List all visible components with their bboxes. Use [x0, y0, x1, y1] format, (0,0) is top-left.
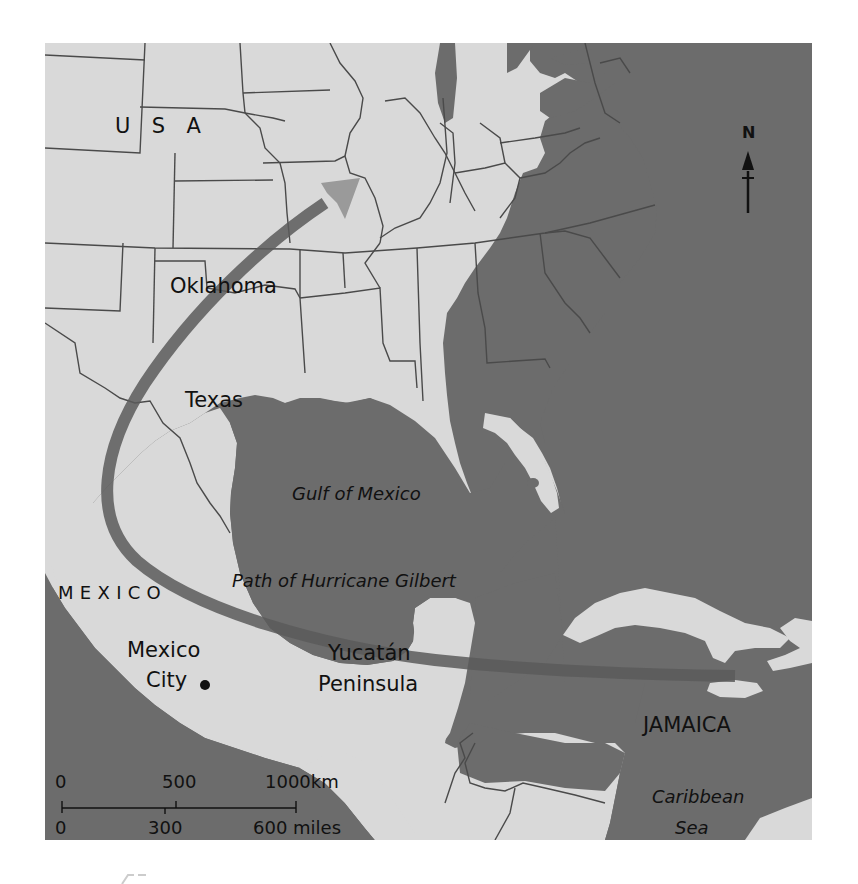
- scale-mi-0: 0: [55, 819, 66, 837]
- label-jamaica: JAMAICA: [643, 715, 731, 736]
- label-mexico: MEXICO: [58, 584, 167, 602]
- scale-km-500: 500: [162, 773, 196, 791]
- label-hurricane-path: Path of Hurricane Gilbert: [232, 572, 456, 590]
- scale-km-0: 0: [55, 773, 66, 791]
- label-gulf-of-mexico: Gulf of Mexico: [292, 485, 421, 503]
- label-caribbean-1: Caribbean: [652, 788, 744, 806]
- scale-mi-300: 300: [148, 819, 182, 837]
- scale-mi-600: 600 miles: [253, 819, 341, 837]
- compass-n-label: N: [742, 125, 755, 141]
- map-frame: U S A Oklahoma Texas Gulf of Mexico Path…: [45, 43, 812, 840]
- label-yucatan-2: Peninsula: [318, 674, 418, 695]
- label-mexico-city-1: Mexico: [127, 640, 200, 661]
- cropped-glyph-fragment: [120, 872, 150, 884]
- label-mexico-city-2: City: [146, 670, 187, 691]
- label-caribbean-2: Sea: [675, 819, 709, 837]
- mexico-city-marker-icon: [200, 680, 210, 690]
- label-oklahoma: Oklahoma: [170, 276, 277, 297]
- label-yucatan-1: Yucatán: [328, 643, 411, 664]
- label-texas: Texas: [185, 390, 243, 411]
- scale-km-1000: 1000km: [265, 773, 339, 791]
- label-usa: U S A: [115, 116, 208, 137]
